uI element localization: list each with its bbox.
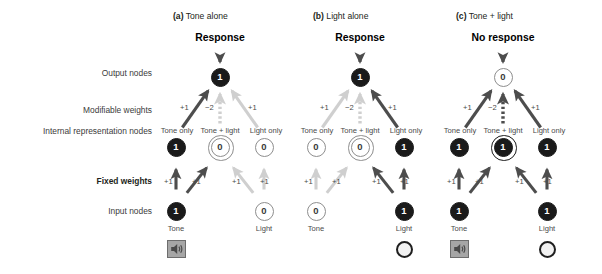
internal-node-lightonly-b: 1 bbox=[395, 138, 414, 157]
panel-title-a: (a) Tone alone bbox=[173, 11, 228, 21]
panel-title-text-c: Tone + light bbox=[467, 11, 513, 21]
panel-letter-b: (b) bbox=[313, 11, 324, 21]
input-node-tone-c: 1 bbox=[450, 202, 469, 221]
figure-canvas: Output nodes Modifiable weights Internal… bbox=[0, 0, 602, 274]
fixed-weight-label-2-c: +1 bbox=[475, 177, 484, 186]
input-node-light-c: 1 bbox=[538, 202, 557, 221]
internal-node-caption-lightonly-a: Light only bbox=[239, 126, 293, 135]
modifiable-weight-label-left-a: +1 bbox=[180, 103, 189, 112]
fixed-weight-label-4-a: +1 bbox=[260, 177, 269, 186]
internal-node-toneonly-a: 1 bbox=[167, 138, 186, 157]
speaker-icon-c bbox=[450, 240, 469, 258]
modifiable-weight-label-right-b: +1 bbox=[388, 103, 397, 112]
input-node-caption-tone-a: Tone bbox=[149, 224, 203, 233]
response-label-a: Response bbox=[150, 32, 290, 44]
modifiable-weight-label-right-c: +1 bbox=[531, 103, 540, 112]
internal-node-tonelight-c: 1 bbox=[494, 138, 513, 157]
input-node-caption-light-a: Light bbox=[237, 224, 291, 233]
input-node-caption-tone-c: Tone bbox=[432, 224, 486, 233]
internal-node-caption-lightonly-c: Light only bbox=[522, 126, 576, 135]
panel-title-b: (b) Light alone bbox=[313, 11, 368, 21]
modifiable-weight-label-middle-b: −2 bbox=[345, 103, 354, 112]
fixed-weight-label-3-b: +1 bbox=[372, 177, 381, 186]
panel-title-c: (c) Tone + light bbox=[456, 11, 513, 21]
internal-node-toneonly-b: 0 bbox=[307, 138, 326, 157]
panel-title-text-b: Light alone bbox=[324, 11, 368, 21]
response-label-b: Response bbox=[290, 32, 430, 44]
lamp-icon-b bbox=[396, 241, 413, 258]
internal-node-tonelight-b: 0 bbox=[351, 138, 370, 157]
input-node-caption-light-c: Light bbox=[520, 224, 574, 233]
fixed-weight-label-2-a: +1 bbox=[192, 177, 201, 186]
internal-node-lightonly-c: 1 bbox=[538, 138, 557, 157]
fixed-weight-label-1-b: +1 bbox=[304, 177, 313, 186]
input-node-caption-light-b: Light bbox=[377, 224, 431, 233]
speaker-icon-a bbox=[167, 240, 186, 258]
modifiable-weight-label-left-b: +1 bbox=[320, 103, 329, 112]
fixed-weight-label-1-c: +1 bbox=[447, 177, 456, 186]
modifiable-weight-label-left-c: +1 bbox=[463, 103, 472, 112]
lamp-icon-c bbox=[539, 241, 556, 258]
input-node-tone-b: 0 bbox=[307, 202, 326, 221]
fixed-weight-label-4-c: +1 bbox=[543, 177, 552, 186]
output-node-a: 1 bbox=[211, 68, 230, 87]
fixed-weight-label-1-a: +1 bbox=[164, 177, 173, 186]
panel-title-text-a: Tone alone bbox=[184, 11, 228, 21]
modifiable-weight-label-right-a: +1 bbox=[248, 103, 257, 112]
output-node-b: 1 bbox=[351, 68, 370, 87]
input-node-light-a: 0 bbox=[255, 202, 274, 221]
internal-node-lightonly-a: 0 bbox=[255, 138, 274, 157]
panel-letter-a: (a) bbox=[173, 11, 184, 21]
input-node-light-b: 1 bbox=[395, 202, 414, 221]
response-label-c: No response bbox=[433, 32, 573, 44]
internal-node-toneonly-c: 1 bbox=[450, 138, 469, 157]
panel-letter-c: (c) bbox=[456, 11, 467, 21]
fixed-weight-label-2-b: +1 bbox=[332, 177, 341, 186]
internal-node-caption-lightonly-b: Light only bbox=[379, 126, 433, 135]
modifiable-weight-label-middle-c: −2 bbox=[488, 103, 497, 112]
fixed-weight-label-3-a: +1 bbox=[232, 177, 241, 186]
output-node-c: 0 bbox=[494, 68, 513, 87]
fixed-weight-label-4-b: +1 bbox=[400, 177, 409, 186]
input-node-caption-tone-b: Tone bbox=[289, 224, 343, 233]
input-node-tone-a: 1 bbox=[167, 202, 186, 221]
fixed-weight-label-3-c: +1 bbox=[515, 177, 524, 186]
internal-node-tonelight-a: 0 bbox=[211, 138, 230, 157]
modifiable-weight-label-middle-a: −2 bbox=[205, 103, 214, 112]
